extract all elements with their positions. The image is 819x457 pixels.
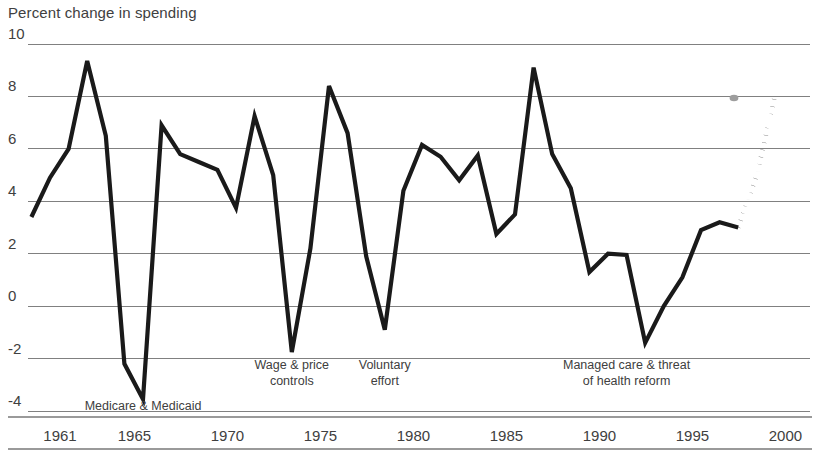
x-tick-label-1961: 1961: [25, 427, 95, 444]
chart-container: Percent change in spending 1086420-2-4 1…: [0, 0, 819, 457]
y-tick-label-10: 10: [8, 25, 48, 42]
y-tick-label-4: 4: [8, 182, 48, 199]
gray-smudge: [730, 95, 739, 101]
data-series-layer: [31, 61, 775, 399]
x-tick-label-1970: 1970: [192, 427, 262, 444]
y-tick-label-6: 6: [8, 130, 48, 147]
image-artifact-layer: [730, 95, 739, 101]
y-tick-label-0: 0: [8, 287, 48, 304]
x-tick-label-1995: 1995: [657, 427, 727, 444]
annotation-2: Voluntary effort: [275, 358, 495, 389]
annotation-0: Medicare & Medicaid: [33, 399, 253, 415]
y-tick-label--2: -2: [8, 340, 48, 357]
series-line-solid: [31, 61, 738, 399]
annotation-3: Managed care & threat of health reform: [517, 358, 737, 389]
x-tick-label-1965: 1965: [99, 427, 169, 444]
x-tick-label-1985: 1985: [471, 427, 541, 444]
x-tick-label-1975: 1975: [285, 427, 355, 444]
y-tick-label-8: 8: [8, 77, 48, 94]
y-tick-label-2: 2: [8, 235, 48, 252]
series-line-dotted: [738, 94, 775, 228]
x-tick-label-1980: 1980: [378, 427, 448, 444]
x-tick-label-2000: 2000: [750, 427, 819, 444]
x-tick-label-1990: 1990: [564, 427, 634, 444]
